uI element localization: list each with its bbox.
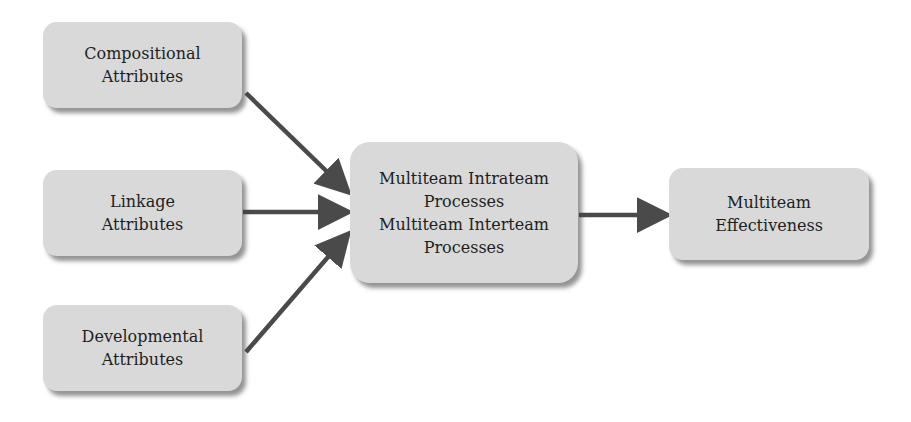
arrow-compositional-to-processes (246, 93, 347, 191)
node-linkage-attributes: Linkage Attributes (43, 170, 242, 256)
node-label-line: Processes (424, 236, 505, 259)
node-label-line: Effectiveness (715, 214, 823, 237)
node-label-line: Compositional (84, 42, 200, 65)
node-compositional-attributes: Compositional Attributes (43, 22, 242, 108)
node-label-line: Attributes (102, 65, 184, 88)
arrow-developmental-to-processes (246, 235, 347, 352)
node-label-line: Attributes (102, 213, 184, 236)
node-label-line: Processes (424, 190, 505, 213)
node-multiteam-effectiveness: Multiteam Effectiveness (669, 168, 869, 260)
node-label-line: Multiteam Interteam (379, 213, 549, 236)
node-label-line: Attributes (102, 348, 184, 371)
node-label-line: Multiteam Intrateam (379, 167, 549, 190)
node-label-line: Multiteam (727, 191, 811, 214)
node-developmental-attributes: Developmental Attributes (43, 305, 242, 391)
node-multiteam-processes: Multiteam Intrateam Processes Multiteam … (350, 142, 578, 283)
node-label-line: Linkage (110, 190, 175, 213)
node-label-line: Developmental (82, 325, 204, 348)
